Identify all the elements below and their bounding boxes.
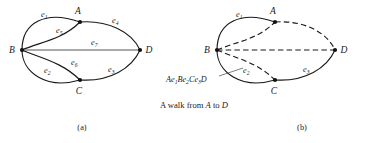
panel-b-graph: A B C D e1 e2 e3 Ae1Be2Ce3D (b) <box>165 6 348 132</box>
vertex-dot-a-panel-b <box>273 20 277 24</box>
figure-caption: A walk from A to D <box>160 100 229 110</box>
edge-label-e3-panel-a: e3 <box>108 65 115 75</box>
vertex-label-c-panel-b: C <box>271 86 278 96</box>
figure-container: A B C D e1 e5 e7 e4 e6 e2 e3 (a) <box>0 0 387 143</box>
edge-label-e6-panel-a: e6 <box>71 58 78 68</box>
vertex-label-a-panel-a: A <box>74 6 81 16</box>
graph-figure-svg: A B C D e1 e5 e7 e4 e6 e2 e3 (a) <box>0 0 387 143</box>
vertex-label-c-panel-a: C <box>76 86 83 96</box>
edge-e1-panel-a <box>22 17 80 50</box>
panel-caption-b: (b) <box>297 123 307 132</box>
walk-sequence-annotation: Ae1Be2Ce3D <box>165 75 207 85</box>
edge-e1-panel-b <box>217 17 275 50</box>
edge-e4-panel-b <box>275 22 335 50</box>
vertex-dot-b-panel-b <box>215 48 219 52</box>
walk-annotation-leader-line <box>219 68 243 76</box>
edge-label-e1-panel-b: e1 <box>236 10 243 20</box>
vertex-label-a-panel-b: A <box>269 6 276 16</box>
edge-label-e1-panel-a: e1 <box>41 10 48 20</box>
edge-label-e5-panel-a: e5 <box>56 26 63 36</box>
edge-label-e2-panel-a: e2 <box>44 66 51 76</box>
vertex-label-d-panel-b: D <box>340 45 348 55</box>
vertex-label-b-panel-b: B <box>204 45 210 55</box>
edge-label-e2-panel-b: e2 <box>243 66 250 76</box>
vertex-dot-c-panel-b <box>273 78 277 82</box>
panel-a-graph: A B C D e1 e5 e7 e4 e6 e2 e3 (a) <box>9 6 152 132</box>
edge-e4-panel-a <box>80 22 140 50</box>
edge-label-e3-panel-b: e3 <box>303 65 310 75</box>
vertex-label-b-panel-a: B <box>9 45 15 55</box>
edge-label-e7-panel-a: e7 <box>91 38 98 48</box>
vertex-label-d-panel-a: D <box>145 45 153 55</box>
edge-label-e4-panel-a: e4 <box>112 16 119 26</box>
vertex-dot-a-panel-a <box>78 20 82 24</box>
vertex-dot-d-panel-b <box>333 48 337 52</box>
panel-caption-a: (a) <box>77 123 87 132</box>
vertex-dot-c-panel-a <box>78 78 82 82</box>
vertex-dot-d-panel-a <box>138 48 142 52</box>
vertex-dot-b-panel-a <box>20 48 24 52</box>
